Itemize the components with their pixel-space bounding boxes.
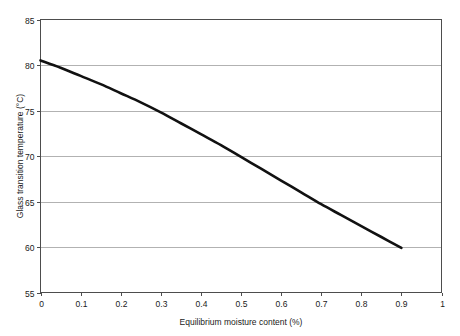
x-axis-title: Equilibrium moisture content (%) bbox=[180, 317, 303, 327]
x-tick-label-0: 0 bbox=[39, 299, 44, 309]
line-chart: 55606570758085 00.10.20.30.40.50.60.70.8… bbox=[0, 0, 460, 336]
x-tick-label-0.3: 0.3 bbox=[156, 299, 168, 309]
x-tick-label-0.5: 0.5 bbox=[236, 299, 248, 309]
x-tick-label-0.2: 0.2 bbox=[116, 299, 128, 309]
x-tick-label-1: 1 bbox=[440, 299, 445, 309]
y-tick-label-85: 85 bbox=[25, 16, 35, 26]
x-axis-tick-labels: 00.10.20.30.40.50.60.70.80.91 bbox=[39, 299, 445, 309]
y-tick-label-75: 75 bbox=[25, 107, 35, 117]
x-tick-label-0.6: 0.6 bbox=[276, 299, 288, 309]
y-axis-title: Glass transition temperature (°C) bbox=[15, 94, 25, 218]
y-tick-label-65: 65 bbox=[25, 198, 35, 208]
y-axis-tick-labels: 55606570758085 bbox=[25, 16, 35, 299]
chart-figure: 55606570758085 00.10.20.30.40.50.60.70.8… bbox=[0, 0, 460, 336]
y-tick-label-80: 80 bbox=[25, 61, 35, 71]
y-tick-label-60: 60 bbox=[25, 243, 35, 253]
y-tick-label-55: 55 bbox=[25, 289, 35, 299]
x-tick-label-0.9: 0.9 bbox=[396, 299, 408, 309]
x-tick-label-0.1: 0.1 bbox=[76, 299, 88, 309]
x-tick-label-0.7: 0.7 bbox=[316, 299, 328, 309]
y-tick-label-70: 70 bbox=[25, 152, 35, 162]
x-tick-label-0.8: 0.8 bbox=[356, 299, 368, 309]
x-tick-label-0.4: 0.4 bbox=[196, 299, 208, 309]
